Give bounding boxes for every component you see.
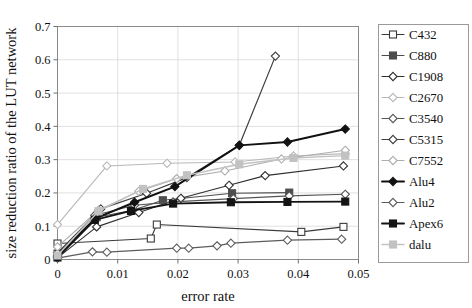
series-data-point [342, 152, 349, 159]
legend-item-c432[interactable]: C432 [382, 28, 437, 42]
legend-item-c1908[interactable]: C1908 [382, 70, 443, 84]
legend-label: dalu [409, 238, 432, 252]
series-data-point [185, 244, 193, 252]
y-axis-tick-label: 0.2 [35, 186, 51, 200]
series-data-point [103, 248, 111, 256]
y-axis-tick-label: 0.6 [35, 53, 51, 67]
legend-item-apex6[interactable]: Apex6 [382, 217, 444, 231]
legend-marker [389, 156, 397, 164]
series-data-point [88, 248, 96, 256]
legend-label: Alu4 [409, 175, 435, 189]
series-data-point [338, 235, 346, 243]
legend-label: C7552 [409, 154, 443, 168]
series-data-point [54, 252, 61, 259]
series-data-point [183, 172, 190, 179]
legend-marker [390, 220, 397, 227]
y-axis-tick-label: 0.7 [35, 20, 51, 34]
y-axis-title: size reduction ratio of the LUT network [3, 27, 19, 259]
series-data-point [170, 200, 177, 207]
series-data-point [163, 159, 171, 167]
legend-label: C880 [409, 49, 437, 63]
x-axis-tick-label: 0.01 [107, 267, 129, 281]
y-axis-tick-label: 0.4 [35, 120, 51, 134]
legend-label: C5315 [409, 133, 443, 147]
legend-label: Alu2 [409, 196, 435, 210]
series-data-point [153, 221, 160, 228]
series-data-point [340, 223, 347, 230]
x-axis-tick-label: 0.03 [227, 267, 249, 281]
legend-marker [389, 72, 397, 80]
legend-item-alu2[interactable]: Alu2 [382, 196, 435, 210]
legend-marker [389, 198, 397, 206]
legend-item-c880[interactable]: C880 [382, 49, 437, 63]
y-axis-tick-label: 0.1 [35, 220, 51, 234]
legend-label: C432 [409, 28, 437, 42]
legend-label: C2670 [409, 91, 443, 105]
axis-tick-labels: 00.10.20.30.40.50.60.700.010.020.030.040… [35, 20, 370, 281]
legend-label: C1908 [409, 70, 443, 84]
series-data-point [147, 235, 154, 242]
x-axis-title: error rate [181, 288, 235, 304]
legend-item-dalu[interactable]: dalu [382, 238, 432, 252]
series-line [58, 239, 342, 258]
legend-marker [390, 31, 397, 38]
series-data-point [271, 52, 279, 60]
series-data-point [298, 228, 305, 235]
legend-marker [390, 241, 397, 248]
legend-label: C3540 [409, 112, 443, 126]
series-data-point [290, 154, 297, 161]
series-data-point [261, 172, 269, 180]
series-data-point [227, 199, 234, 206]
series-data-point [95, 208, 102, 215]
legend-item-c2670[interactable]: C2670 [382, 91, 443, 105]
y-axis-tick-label: 0 [44, 253, 50, 267]
legend-marker [390, 52, 397, 59]
legend-marker [389, 114, 397, 122]
series-data-point [227, 239, 235, 247]
x-axis-tick-label: 0.04 [287, 267, 310, 281]
data-series-layer [53, 52, 349, 262]
chart-legend: C432C880C1908C2670C3540C5315C7552Alu4Alu… [379, 25, 469, 263]
x-axis-tick-label: 0.02 [167, 267, 189, 281]
line-chart: 00.10.20.30.40.50.60.700.010.020.030.040… [0, 0, 472, 308]
series-data-point [283, 138, 291, 146]
legend-label: Apex6 [409, 217, 444, 231]
series-data-point [341, 190, 349, 198]
x-axis-tick-label: 0.05 [348, 267, 370, 281]
series-data-point [283, 236, 291, 244]
chart-container: 00.10.20.30.40.50.60.700.010.020.030.040… [0, 0, 472, 308]
series-data-point [225, 181, 233, 189]
series-data-point [284, 198, 291, 205]
legend-item-c5315[interactable]: C5315 [382, 133, 443, 147]
legend-item-alu4[interactable]: Alu4 [382, 175, 435, 189]
series-data-point [139, 185, 146, 192]
legend-item-c7552[interactable]: C7552 [382, 154, 443, 168]
legend-marker [389, 93, 397, 101]
legend-item-c3540[interactable]: C3540 [382, 112, 443, 126]
series-data-point [342, 198, 349, 205]
legend-marker [389, 177, 397, 185]
series-data-point [173, 244, 181, 252]
data-series [53, 235, 345, 262]
series-data-point [127, 207, 134, 214]
series-data-point [213, 242, 221, 250]
x-axis-tick-label: 0 [54, 267, 60, 281]
legend-marker [389, 135, 397, 143]
series-data-point [236, 161, 243, 168]
series-data-point [339, 162, 347, 170]
y-axis-tick-label: 0.5 [35, 87, 51, 101]
y-axis-tick-label: 0.3 [35, 153, 51, 167]
